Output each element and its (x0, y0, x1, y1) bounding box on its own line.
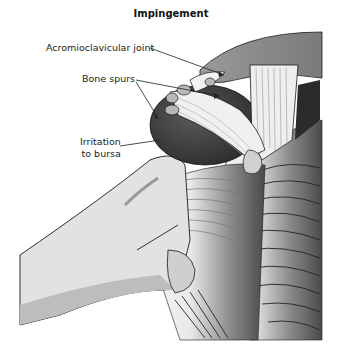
label-acromioclavicular-joint: Acromioclavicular joint (46, 42, 154, 54)
label-bone-spurs: Bone spurs (82, 73, 135, 85)
bone-spurs-pointer-2 (136, 82, 158, 118)
label-line: to bursa (80, 148, 121, 160)
label-line: Irritation (80, 136, 121, 148)
irritation-to-bursa-pointer (120, 140, 160, 146)
label-irritation-to-bursa: Irritation to bursa (80, 136, 121, 160)
